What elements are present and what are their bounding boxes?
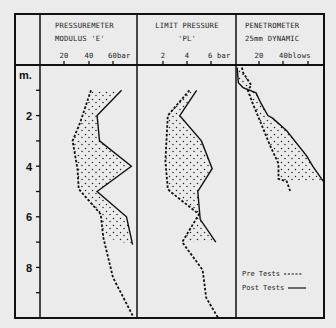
legend-post-label: Post Tests bbox=[242, 284, 284, 292]
panel-3-plot bbox=[237, 68, 323, 192]
depth-unit-label: m. bbox=[19, 69, 32, 81]
depth-label: 8 bbox=[26, 262, 32, 274]
panel-1-tick-label: 40 bbox=[84, 51, 93, 60]
panel-2-tick-label: 2 bbox=[161, 51, 166, 60]
panel-3-tick-label: 40blows bbox=[279, 51, 311, 60]
depth-label: 2 bbox=[26, 110, 32, 122]
legend-pre-label: Pre Tests bbox=[242, 270, 280, 278]
panel-2-title-line-1: LIMIT PRESSURE bbox=[155, 21, 218, 30]
panel-3-tick-label: 20 bbox=[254, 51, 263, 60]
panel-2-plot bbox=[165, 90, 218, 318]
panel-3-title-line-1: PENETROMETER bbox=[245, 21, 300, 30]
panel-1-title-line-2: MODULUS 'E' bbox=[55, 34, 105, 43]
depth-label: 6 bbox=[26, 211, 32, 223]
improvement-stipple-area bbox=[165, 90, 215, 242]
depth-label: 4 bbox=[26, 161, 33, 173]
panel-2-tick-label: 4 bbox=[185, 51, 190, 60]
legend: Pre Tests Post Tests bbox=[242, 270, 306, 292]
improvement-stipple-area bbox=[73, 90, 133, 244]
soil-test-chart: PRESSUREMETER MODULUS 'E' 20 40 60bar LI… bbox=[0, 0, 336, 328]
panel-2-header: LIMIT PRESSURE 'PL' 2 4 6 bar bbox=[155, 21, 231, 65]
panel-1-title-line-1: PRESSUREMETER bbox=[55, 21, 114, 30]
depth-axis: m. 2 4 6 8 bbox=[19, 69, 40, 293]
panel-2-tick-label: 6 bar bbox=[208, 51, 231, 60]
panel-1-plot bbox=[73, 90, 133, 315]
panel-1-tick-label: 60bar bbox=[108, 51, 131, 60]
panel-1-header: PRESSUREMETER MODULUS 'E' 20 40 60bar bbox=[55, 21, 131, 65]
panel-3-title-line-2: 25mm DYNAMIC bbox=[245, 34, 299, 43]
panel-1-tick-label: 20 bbox=[59, 51, 68, 60]
panel-3-header: PENETROMETER 25mm DYNAMIC 20 40blows bbox=[245, 21, 311, 65]
panel-2-title-line-2: 'PL' bbox=[178, 34, 196, 43]
